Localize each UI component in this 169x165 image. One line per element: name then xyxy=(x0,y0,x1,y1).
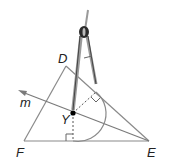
side-DE xyxy=(66,66,149,141)
compass-arc xyxy=(73,92,106,141)
geometry-diagram: D F E Y m xyxy=(0,0,169,165)
right-angle-marker-DE xyxy=(91,97,101,102)
point-Y-dot xyxy=(70,110,75,115)
compass-icon xyxy=(73,10,96,110)
label-F: F xyxy=(16,145,25,160)
right-angle-marker-FE xyxy=(66,134,73,141)
triangle-DEF xyxy=(24,66,149,141)
label-D: D xyxy=(58,51,67,66)
label-Y: Y xyxy=(61,112,71,127)
perpendicular-to-DE xyxy=(73,92,96,113)
label-E: E xyxy=(147,145,156,160)
label-m: m xyxy=(20,95,31,110)
